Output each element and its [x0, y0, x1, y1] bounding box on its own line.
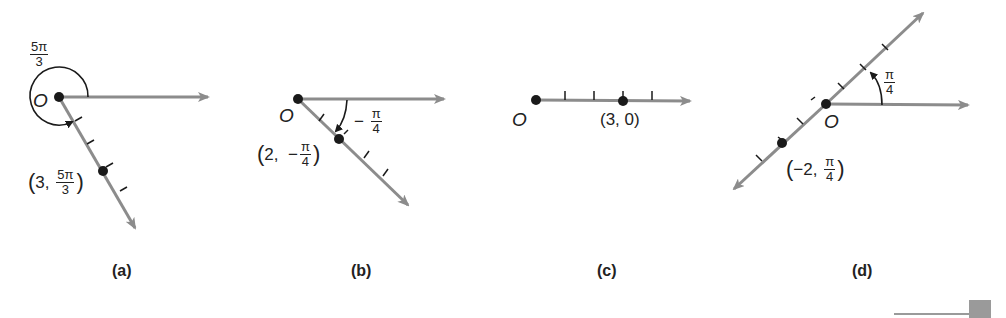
- point-dot: [334, 134, 344, 144]
- fraction-denominator: 3: [62, 183, 69, 197]
- fraction-numerator: π: [824, 155, 835, 170]
- angle-label-d: π4: [882, 68, 897, 96]
- point-r: 2: [264, 146, 273, 163]
- fraction-numerator: π: [884, 68, 895, 83]
- pole-dot: [531, 95, 541, 105]
- line-forward: [826, 13, 923, 104]
- point-dot: [618, 96, 628, 106]
- point-dot: [98, 166, 108, 176]
- page-corner-decoration: [894, 300, 991, 318]
- fraction-numerator: π: [371, 107, 382, 122]
- caption-b: (b): [351, 262, 371, 280]
- panel-a: [30, 67, 208, 228]
- caption-a: (a): [112, 262, 132, 280]
- pole-label-a: O: [33, 91, 48, 110]
- fraction-denominator: 3: [35, 55, 42, 69]
- angle-label-b: − π4: [354, 107, 384, 135]
- caption-d: (d): [852, 262, 872, 280]
- terminal-ray: [59, 97, 135, 228]
- point-label-c: (3, 0): [600, 111, 640, 128]
- point-label-b: (2, − π4): [257, 140, 320, 168]
- pole-label-d: O: [824, 112, 839, 131]
- pole-label-b: O: [279, 106, 294, 125]
- fraction-numerator: 5π: [30, 40, 48, 55]
- angle-arc-icon: [871, 73, 882, 105]
- panel-d: [734, 13, 968, 189]
- pole-dot: [821, 99, 831, 109]
- point-label-a: (3, 5π3): [28, 168, 84, 196]
- fraction-numerator: π: [300, 140, 311, 155]
- pole-dot: [293, 94, 303, 104]
- sign: −: [354, 113, 364, 130]
- tick-marks: [565, 91, 652, 100]
- sign: −: [288, 146, 298, 163]
- point-label-d: (−2, π4): [786, 155, 844, 183]
- panel-c: [531, 91, 690, 106]
- fraction-denominator: 4: [302, 155, 309, 169]
- pole-dot: [54, 92, 64, 102]
- angle-label-a: 5π3: [28, 40, 50, 68]
- point-dot: [777, 138, 787, 148]
- fraction-denominator: 4: [373, 122, 380, 136]
- fraction-denominator: 4: [826, 170, 833, 184]
- fraction-denominator: 4: [886, 83, 893, 97]
- fraction-numerator: 5π: [56, 168, 74, 183]
- angle-arc-icon: [336, 100, 347, 131]
- polar-axis: [536, 100, 690, 101]
- caption-c: (c): [597, 262, 617, 280]
- polar-axis: [826, 104, 968, 105]
- point-r: 3: [35, 174, 44, 191]
- point-r: −2: [793, 161, 812, 178]
- pole-label-c: O: [512, 110, 527, 129]
